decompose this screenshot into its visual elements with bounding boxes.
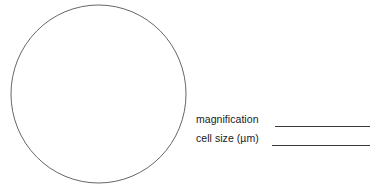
magnification-blank-line[interactable]: [275, 126, 370, 127]
field-of-view-area[interactable]: [0, 0, 200, 189]
answer-row-magnification: magnification: [196, 112, 375, 131]
circle-outline-icon: [0, 0, 200, 189]
worksheet-page: magnification cell size (µm): [0, 0, 375, 189]
magnification-label: magnification: [196, 112, 259, 126]
cell-size-blank-line[interactable]: [272, 145, 370, 146]
cell-size-label: cell size (µm): [196, 131, 259, 145]
answer-row-cell-size: cell size (µm): [196, 131, 375, 150]
field-of-view-circle: [11, 5, 186, 183]
answer-block: magnification cell size (µm): [196, 112, 375, 160]
